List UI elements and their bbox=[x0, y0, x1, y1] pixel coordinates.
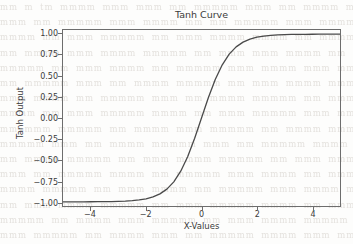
chart-title: Tanh Curve bbox=[62, 9, 341, 20]
y-tick-label: −0.50 bbox=[0, 156, 58, 165]
x-tick-label: 4 bbox=[293, 210, 333, 219]
x-tick-label: −2 bbox=[126, 210, 166, 219]
y-tick-label: 0.00 bbox=[0, 114, 58, 123]
y-tick-label: 1.00 bbox=[0, 29, 58, 38]
x-tick-mark bbox=[313, 207, 314, 211]
chart-screenshot: mm m tm mmmm mmm mmm mm mmmmm mmm mm mmm… bbox=[0, 0, 353, 244]
x-tick-mark bbox=[146, 207, 147, 211]
y-tick-label: 0.25 bbox=[0, 92, 58, 101]
x-tick-label: 0 bbox=[182, 210, 222, 219]
x-tick-label: −4 bbox=[70, 210, 110, 219]
plot-area bbox=[62, 29, 341, 207]
x-tick-mark bbox=[202, 207, 203, 211]
y-tick-label: 0.50 bbox=[0, 71, 58, 80]
x-tick-mark bbox=[257, 207, 258, 211]
x-tick-mark bbox=[90, 207, 91, 211]
x-tick-label: 2 bbox=[237, 210, 277, 219]
tanh-curve-line bbox=[63, 34, 340, 202]
y-tick-label: 0.75 bbox=[0, 50, 58, 59]
y-tick-label: −1.00 bbox=[0, 198, 58, 207]
tanh-curve-svg bbox=[63, 30, 340, 206]
y-tick-label: −0.25 bbox=[0, 135, 58, 144]
matplotlib-figure: Tanh Curve Tanh Output X-Values 1.000.75… bbox=[0, 0, 353, 244]
x-axis-label: X-Values bbox=[62, 221, 341, 231]
y-tick-label: −0.75 bbox=[0, 177, 58, 186]
